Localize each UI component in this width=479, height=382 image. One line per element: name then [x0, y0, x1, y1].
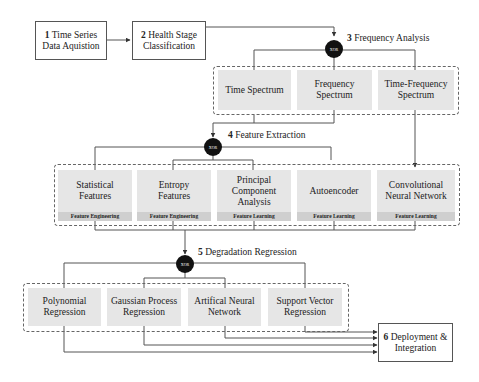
option-label-line2: Spectrum [316, 90, 352, 100]
tag-feature-learning: Feature Learning [377, 212, 455, 221]
option-label-line1: Gaussian Process [111, 296, 177, 306]
option-artificial-neural-network[interactable]: Artifical Neural Network [188, 288, 261, 326]
option-label-line2: Component [232, 186, 276, 196]
step-4-title: Feature Extraction [235, 130, 305, 140]
option-label-line1: Artifical Neural [194, 296, 254, 306]
option-label-line2: Spectrum [398, 90, 434, 100]
option-label-line2: Regression [43, 307, 85, 317]
step-4-number: 4 [228, 130, 233, 140]
step-2-title-line2: Classification [143, 41, 195, 51]
option-principal-component-analysis[interactable]: Principal Component Analysis Feature Lea… [217, 170, 291, 221]
step-1-title-line2: Data Aquistion [42, 41, 99, 51]
option-label-line1: Autoencoder [309, 186, 358, 196]
option-label-line1: Principal [237, 175, 271, 185]
step-2-health-stage-classification[interactable]: 2 Health Stage Classification [132, 21, 206, 60]
option-statistical-features[interactable]: Statistical Features Feature Engineering [58, 170, 132, 221]
option-label-line1: Entropy [159, 180, 190, 190]
step-6-number: 6 [384, 332, 389, 342]
option-label-line1: Support Vector [276, 296, 333, 306]
step-3-title: Frequency Analysis [354, 33, 429, 43]
step-3-number: 3 [347, 33, 352, 43]
option-label-line1: Convolutional [389, 180, 443, 190]
step-1-time-series-data-acquisition[interactable]: 1 Time Series Data Aquistion [35, 21, 107, 60]
step-1-number: 1 [45, 30, 50, 40]
tag-feature-engineering: Feature Engineering [58, 212, 132, 221]
option-convolutional-neural-network[interactable]: Convolutional Neural Network Feature Lea… [377, 170, 455, 221]
xor-gate-frequency-analysis: XOR [325, 40, 343, 58]
option-label-line1: Statistical [76, 180, 113, 190]
option-label-line2: Network [208, 307, 241, 317]
option-autoencoder[interactable]: Autoencoder Feature Learning [297, 170, 371, 221]
xor-gate-degradation-regression: XOR [176, 255, 194, 273]
step-6-title-line2: Integration [395, 343, 437, 353]
option-label-line2: Features [79, 191, 111, 201]
option-entropy-features[interactable]: Entropy Features Feature Engineering [137, 170, 211, 221]
step-3-label: 3 Frequency Analysis [347, 33, 429, 43]
step-5-title: Degradation Regression [205, 247, 297, 257]
tag-feature-learning: Feature Learning [217, 212, 291, 221]
option-label-line1: Frequency [314, 79, 354, 89]
step-5-number: 5 [198, 247, 203, 257]
option-label-line3: Analysis [237, 197, 270, 207]
step-2-number: 2 [141, 30, 146, 40]
step-1-title-line1: Time Series [52, 30, 97, 40]
option-label-line1: Polynomial [43, 296, 87, 306]
option-time-spectrum[interactable]: Time Spectrum [218, 70, 291, 110]
option-gaussian-process-regression[interactable]: Gaussian Process Regression [107, 288, 181, 326]
option-label-line2: Regression [123, 307, 165, 317]
tag-feature-learning: Feature Learning [297, 212, 371, 221]
step-6-title-line1: Deployment & [391, 332, 448, 342]
option-label: Time Spectrum [225, 85, 284, 95]
option-label-line2: Features [158, 191, 190, 201]
option-label-line1: Time-Frequency [385, 79, 448, 89]
option-support-vector-regression[interactable]: Support Vector Regression [268, 288, 342, 326]
option-frequency-spectrum[interactable]: Frequency Spectrum [297, 70, 372, 110]
option-time-frequency-spectrum[interactable]: Time-Frequency Spectrum [378, 70, 454, 110]
step-6-deployment-integration[interactable]: 6 Deployment & Integration [378, 323, 453, 362]
option-polynomial-regression[interactable]: Polynomial Regression [28, 288, 101, 326]
xor-gate-feature-extraction: XOR [204, 138, 222, 156]
tag-feature-engineering: Feature Engineering [137, 212, 211, 221]
step-2-title-line1: Health Stage [148, 30, 197, 40]
option-label-line2: Regression [284, 307, 326, 317]
step-5-label: 5 Degradation Regression [198, 247, 297, 257]
option-label-line2: Neural Network [385, 191, 446, 201]
step-4-label: 4 Feature Extraction [228, 130, 306, 140]
